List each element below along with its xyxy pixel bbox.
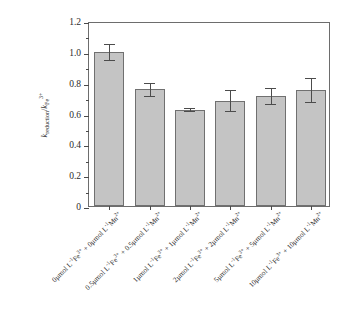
error-bar-cap-upper [104,44,115,45]
y-axis-tick [84,85,89,86]
bar-group[interactable] [175,21,205,206]
y-axis-title-sup2: 3+ [38,93,44,99]
x-axis-category-label: 10μmol L-1Fe3+ + 10μmol L-1Mn2+ [246,210,325,289]
y-axis-tick-label: 0.8 [69,80,81,90]
y-axis-tick-label: 0.2 [69,172,81,182]
x-label-fe-conc: 5μmol L [211,260,235,284]
x-axis-tick [150,206,151,210]
x-axis-category-label: 2μmol L-1Fe3+ + 2μmol L-1Mn2+ [171,210,245,284]
y-axis-title-sub2: Fe [44,99,50,105]
bar[interactable] [256,96,286,206]
plot-area: 00.20.40.60.81.01.2 [88,22,330,207]
y-axis-minor-tick [86,69,89,70]
error-bar-cap-lower [104,60,115,61]
error-bar-cap-lower [305,102,316,103]
x-axis-tick [109,206,110,210]
y-axis-tick [84,208,89,209]
bar-group[interactable] [256,21,286,206]
error-bar [271,88,272,104]
error-bar [311,78,312,103]
y-axis-tick-label: 0.6 [69,111,81,121]
y-axis-title-k1: k [39,134,49,138]
bar-group[interactable] [94,21,124,206]
x-axis-category-label: 0μmol L-1Fe3+ + 0μmol L-1Mn2+ [50,210,124,284]
y-axis-tick [84,177,89,178]
error-bar-cap-upper [144,83,155,84]
error-bar-cap-lower [225,111,236,112]
bar[interactable] [215,101,245,206]
error-bar-cap-upper [225,90,236,91]
bar[interactable] [175,110,205,206]
error-bar-cap-upper [265,88,276,89]
error-bar [230,90,231,112]
x-label-mn-conc: 0μmol L [85,224,109,248]
x-label-mn-ion: Mn [227,214,241,228]
y-axis-tick-label: 0.4 [69,142,81,152]
y-axis-tick-label: 1.0 [69,49,81,59]
y-axis-minor-tick [86,193,89,194]
bar[interactable] [135,89,165,206]
y-axis-tick [84,116,89,117]
bar[interactable] [94,52,124,206]
y-axis-minor-tick [86,162,89,163]
error-bar-cap-lower [265,104,276,105]
x-label-fe-conc: 10μmol L [247,262,274,289]
x-axis-tick [190,206,191,210]
bar-group[interactable] [296,21,326,206]
x-axis-category-label: 1μmol L-1Fe3+ + 1μmol L-1Mn2+ [130,210,204,284]
x-axis-tick [271,206,272,210]
y-axis-tick [84,146,89,147]
y-axis-title-k2: k [39,105,49,109]
error-bar-cap-lower [184,111,195,112]
x-axis-category-label: 0.5μmol L-1Fe3+ + 0.5μmol L-1Mn2+ [82,210,163,291]
x-label-fe-conc: 0.5μmol L [83,264,111,292]
error-bar-cap-upper [305,78,316,79]
x-axis-tick [230,206,231,210]
x-label-fe-conc: 2μmol L [171,260,195,284]
error-bar-cap-lower [144,96,155,97]
x-label-fe-conc: 0μmol L [50,260,74,284]
y-axis-title-sub1: reduction [44,111,50,134]
x-label-mn-conc: 2μmol L [206,224,230,248]
x-label-mn-conc: 10μmol L [285,224,312,251]
x-axis-category-label: 5μmol L-1Fe3+ + 5μmol L-1Mn2+ [211,210,285,284]
bar-chart-figure: kreduction/kFe3+ 00.20.40.60.81.01.2 0μm… [0,0,343,332]
error-bar-cap-upper [184,108,195,109]
y-axis-minor-tick [86,100,89,101]
x-axis-tick [311,206,312,210]
bar[interactable] [296,90,326,206]
error-bar [150,83,151,96]
bar-group[interactable] [215,21,245,206]
y-axis-minor-tick [86,38,89,39]
y-axis-title: kreduction/kFe3+ [38,93,51,138]
y-axis-tick-label: 0 [76,203,81,213]
y-axis-minor-tick [86,131,89,132]
y-axis-tick [84,54,89,55]
x-label-mn-conc: 0.5μmol L [122,224,150,252]
y-axis-title-slash: / [39,109,49,111]
x-label-mn-ion: Mn [106,214,120,228]
error-bar [109,44,110,60]
y-axis-tick [84,23,89,24]
bar-group[interactable] [135,21,165,206]
y-axis-tick-label: 1.2 [69,18,81,28]
